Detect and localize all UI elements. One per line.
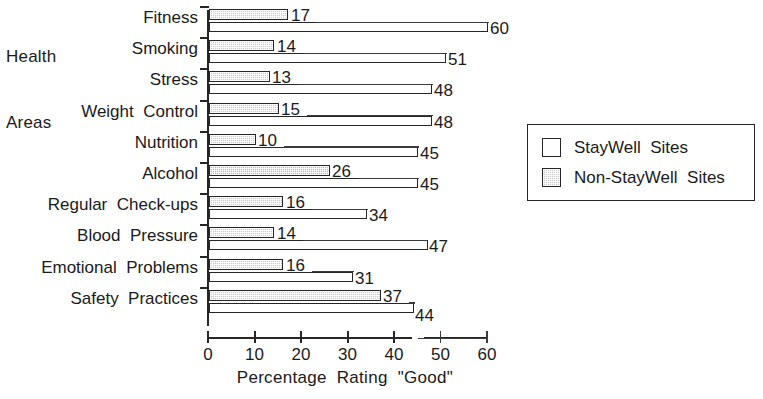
x-axis-tick (207, 331, 209, 343)
category-label: Regular Check-ups (48, 195, 198, 215)
bar-value-non-staywell: 14 (277, 225, 296, 242)
bar-value-staywell: 45 (420, 176, 439, 193)
bar-value-staywell: 44 (415, 307, 434, 324)
bar-non-staywell (209, 227, 274, 238)
y-axis-tick (200, 6, 209, 8)
category-label: Stress (150, 70, 198, 90)
y-axis-heading-line-1: Health (6, 46, 56, 68)
legend-item-staywell: StayWell Sites (542, 136, 688, 158)
bar-value-staywell: 51 (448, 51, 467, 68)
x-axis-tick-label: 20 (281, 345, 321, 365)
bar-value-staywell: 47 (429, 238, 448, 255)
leader-line (303, 53, 447, 54)
x-axis-tick-label: 50 (421, 345, 461, 365)
bar-staywell (209, 116, 432, 126)
bar-group: Regular Check-ups 16 34 (207, 193, 487, 224)
legend-item-non-staywell: Non-StayWell Sites (542, 166, 725, 188)
x-axis-tick (440, 331, 442, 343)
bar-staywell (209, 147, 418, 157)
y-axis-tick (200, 193, 209, 195)
bar-non-staywell (209, 9, 288, 20)
bar-staywell (209, 84, 432, 94)
bar-staywell (209, 53, 446, 63)
legend: StayWell Sites Non-StayWell Sites (527, 124, 755, 201)
bar-staywell (209, 178, 418, 188)
bar-group: Emotional Problems 16 31 (207, 256, 487, 287)
y-axis-tick (200, 100, 209, 102)
x-axis-tick (300, 331, 302, 343)
bar-group: Alcohol 26 45 (207, 162, 487, 193)
bar-chart: Health Areas Fitness 17 60 Smoking 14 51… (0, 0, 763, 399)
bar-value-staywell: 34 (369, 207, 388, 224)
legend-swatch-gray-icon (542, 168, 561, 187)
x-axis-tick-label: 40 (374, 345, 414, 365)
leader-line (298, 84, 433, 85)
category-label: Blood Pressure (77, 226, 198, 246)
bar-non-staywell (209, 290, 381, 301)
bar-value-non-staywell: 15 (281, 101, 300, 118)
category-label: Fitness (143, 8, 198, 28)
y-axis-tick (200, 162, 209, 164)
plot-area: Fitness 17 60 Smoking 14 51 Stress 13 48 (207, 6, 487, 319)
y-axis-tick (200, 68, 209, 70)
x-axis-tick (254, 331, 256, 343)
category-label: Alcohol (142, 164, 198, 184)
bar-non-staywell (209, 134, 256, 145)
bar-group: Smoking 14 51 (207, 37, 487, 68)
leader-line (358, 178, 419, 179)
category-label: Smoking (132, 39, 198, 59)
leader-line (312, 271, 354, 272)
bar-non-staywell (209, 71, 270, 82)
bar-non-staywell (209, 196, 283, 207)
bar-value-staywell: 60 (490, 20, 509, 37)
x-axis-tick (393, 331, 395, 343)
bar-value-staywell: 31 (355, 270, 374, 287)
bar-group: Fitness 17 60 (207, 6, 487, 37)
bar-group: Nutrition 10 45 (207, 131, 487, 162)
category-label: Nutrition (135, 133, 198, 153)
leader-line (303, 240, 428, 241)
leader-line (312, 209, 368, 210)
y-axis-heading-line-2: Areas (6, 112, 56, 134)
bar-group: Stress 13 48 (207, 68, 487, 99)
bar-value-non-staywell: 16 (286, 257, 305, 274)
y-axis-tick (200, 256, 209, 258)
x-axis-tick-label: 10 (235, 345, 275, 365)
y-axis-tick (200, 131, 209, 133)
bar-non-staywell (209, 165, 330, 176)
x-axis-tick (486, 331, 488, 343)
y-axis-tick (200, 224, 209, 226)
bar-non-staywell (209, 40, 274, 51)
x-axis-line-extension (418, 338, 487, 339)
bar-staywell (209, 272, 353, 282)
bar-value-non-staywell: 26 (332, 163, 351, 180)
bar-non-staywell (209, 259, 283, 270)
bar-staywell (209, 240, 428, 250)
category-label: Safety Practices (70, 289, 198, 309)
y-axis-heading: Health Areas (6, 2, 56, 178)
bar-group: Blood Pressure 14 47 (207, 224, 487, 255)
category-label: Weight Control (81, 102, 198, 122)
bar-value-staywell: 45 (420, 145, 439, 162)
bar-group: Safety Practices 37 44 (207, 287, 487, 318)
x-axis-tick-label: 60 (467, 345, 507, 365)
category-label: Emotional Problems (41, 258, 198, 278)
bar-value-non-staywell: 10 (258, 132, 277, 149)
y-axis-tick (200, 287, 209, 289)
y-axis-tick (200, 37, 209, 39)
bar-non-staywell (209, 103, 279, 114)
legend-swatch-white-icon (542, 138, 561, 157)
bar-value-non-staywell: 17 (291, 7, 310, 24)
bar-value-staywell: 48 (434, 114, 453, 131)
bar-group: Weight Control 15 48 (207, 100, 487, 131)
x-axis-tick (347, 331, 349, 343)
bar-value-non-staywell: 14 (277, 38, 296, 55)
legend-label: StayWell Sites (574, 138, 688, 157)
x-axis-title: Percentage Rating "Good" (0, 368, 690, 388)
leader-line (317, 22, 489, 23)
bar-value-non-staywell: 13 (272, 69, 291, 86)
leader-line (409, 302, 415, 303)
x-axis-tick-label: 0 (188, 345, 228, 365)
bar-value-non-staywell: 37 (383, 288, 402, 305)
legend-label: Non-StayWell Sites (574, 168, 725, 187)
